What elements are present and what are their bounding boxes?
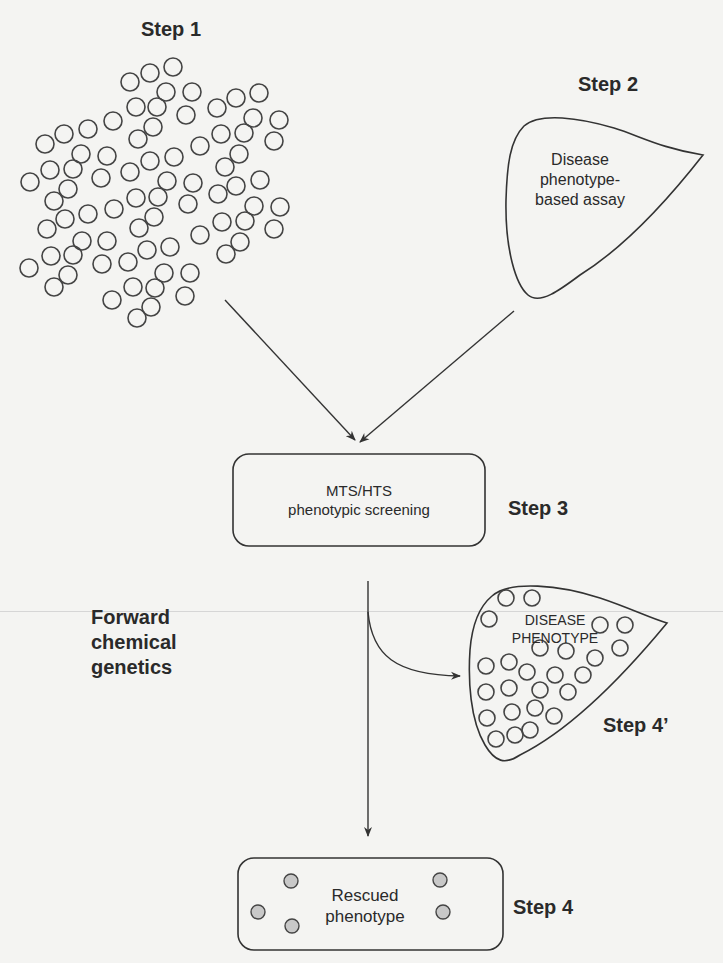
screening-box-text: MTS/HTS phenotypic screening: [233, 481, 485, 519]
step-4-label: Step 4: [513, 896, 573, 919]
step-4-prime-label: Step 4’: [603, 714, 669, 737]
assay-line-2: phenotype-: [510, 170, 650, 190]
side-label-line-1: Forward: [91, 605, 177, 630]
forward-chemical-genetics-label: Forward chemical genetics: [91, 605, 177, 680]
side-label-line-2: chemical: [91, 630, 177, 655]
arrow-assay-to-screening: [360, 311, 514, 442]
assay-line-3: based assay: [510, 190, 650, 210]
rescued-line-2: phenotype: [300, 906, 430, 927]
screening-line-2: phenotypic screening: [233, 500, 485, 519]
assay-line-1: Disease: [510, 150, 650, 170]
disease-assay-text: Disease phenotype- based assay: [510, 150, 650, 210]
phenotype-line-1: DISEASE: [490, 611, 620, 629]
phenotype-line-2: PHENOTYPE: [490, 629, 620, 647]
step-1-label: Step 1: [141, 18, 201, 41]
arrow-branch-to-disease-phenotype: [368, 612, 460, 676]
arrow-library-to-screening: [225, 300, 355, 440]
step-3-label: Step 3: [508, 497, 568, 520]
rescued-box-text: Rescued phenotype: [300, 885, 430, 927]
compound-library-circles: [20, 58, 289, 327]
side-label-line-3: genetics: [91, 655, 177, 680]
step-2-label: Step 2: [578, 73, 638, 96]
disease-phenotype-text: DISEASE PHENOTYPE: [490, 611, 620, 647]
screening-line-1: MTS/HTS: [233, 481, 485, 500]
rescued-line-1: Rescued: [300, 885, 430, 906]
